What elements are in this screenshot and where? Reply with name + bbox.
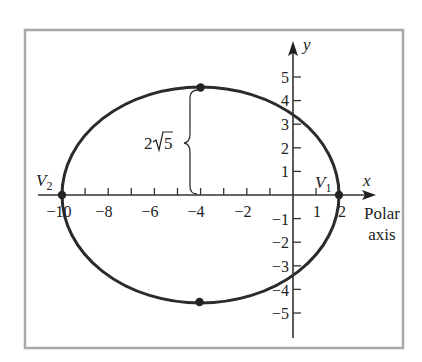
x-tick-label: −6 [141, 203, 158, 220]
x-tick-label: 1 [313, 203, 321, 220]
x-tick-label: −8 [95, 203, 112, 220]
polar-axis-label-line2: axis [368, 225, 395, 244]
vertex-v1-label: V1 [315, 173, 331, 195]
vertex-v1-point [335, 191, 343, 199]
y-tick-label: 2 [281, 140, 289, 157]
y-tick-label: −4 [272, 282, 289, 299]
brace-label: 2 5 [144, 132, 173, 153]
y-tick-label: 1 [281, 163, 289, 180]
y-axis-label: y [301, 35, 311, 54]
y-tick-label: −5 [272, 305, 289, 322]
vertex-v2-point [58, 191, 66, 199]
y-tick-label: 3 [281, 116, 289, 133]
ellipse-diagram: −10 −8 −6 −4 −2 1 2 1 2 3 4 5 −1 −2 −3 −… [0, 0, 422, 362]
brace-label-coef: 2 [144, 134, 153, 153]
x-ticks [62, 188, 339, 195]
y-tick-label: −1 [272, 211, 289, 228]
x-tick-label: −10 [46, 203, 71, 220]
x-tick-labels: −10 −8 −6 −4 −2 1 2 [46, 203, 346, 220]
y-tick-label: 5 [281, 69, 289, 86]
vertex-v2-label: V2 [36, 171, 52, 193]
x-tick-label: −4 [187, 203, 204, 220]
y-tick-label: −2 [272, 234, 289, 251]
x-axis-label: x [362, 171, 371, 190]
figure-frame [25, 30, 403, 348]
x-tick-label: 2 [338, 203, 346, 220]
brace-label-radicand: 5 [164, 134, 173, 153]
brace-icon [184, 90, 198, 194]
y-tick-label: −3 [272, 258, 289, 275]
minor-axis-bottom-point [195, 298, 203, 306]
x-tick-label: −2 [234, 203, 251, 220]
polar-axis-label-line1: Polar [364, 204, 400, 223]
y-tick-label: 4 [281, 92, 289, 109]
